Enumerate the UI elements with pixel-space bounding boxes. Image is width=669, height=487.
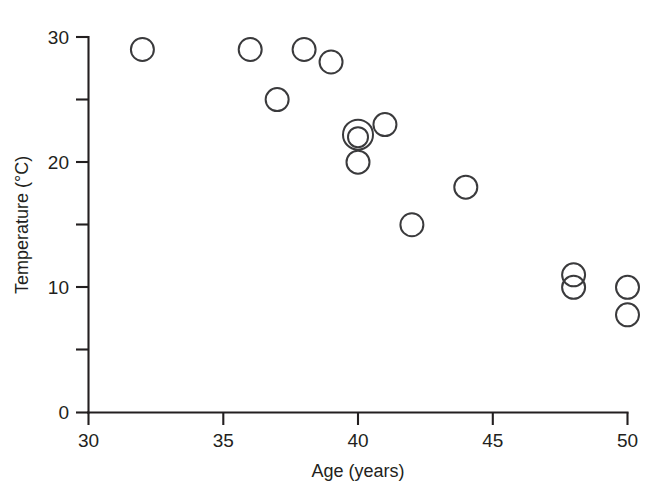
x-tick-label-50: 50: [617, 430, 638, 451]
data-point: [239, 38, 262, 61]
y-tick-label-10: 10: [48, 277, 69, 298]
y-tick-labels: 30 20 10 0: [48, 27, 69, 423]
x-tick-labels: 30 35 40 45 50: [78, 430, 638, 451]
data-point: [562, 276, 585, 299]
x-axis-title: Age (years): [311, 461, 404, 481]
x-tick-label-40: 40: [347, 430, 368, 451]
data-point: [266, 88, 289, 111]
x-tick-label-45: 45: [482, 430, 503, 451]
x-axis-ticks: [89, 413, 628, 426]
data-point: [348, 127, 368, 147]
x-tick-label-35: 35: [213, 430, 234, 451]
y-tick-label-30: 30: [48, 27, 69, 48]
y-tick-label-0: 0: [58, 402, 69, 423]
y-tick-label-20: 20: [48, 152, 69, 173]
y-axis-ticks: [76, 37, 89, 413]
x-tick-label-30: 30: [78, 430, 99, 451]
data-point-group: [131, 38, 639, 326]
plot-canvas: 30 20 10 0 30 35 40 45 50 Age (years) Te…: [0, 0, 669, 487]
data-point: [347, 151, 370, 174]
data-point: [320, 51, 343, 74]
data-point: [616, 303, 639, 326]
data-point: [293, 38, 316, 61]
data-point: [131, 38, 154, 61]
y-axis-title: Temperature (°C): [12, 156, 32, 294]
data-point: [562, 263, 585, 286]
data-point: [373, 113, 396, 136]
data-point: [454, 176, 477, 199]
data-point: [400, 213, 423, 236]
data-point: [616, 276, 639, 299]
scatter-plot-figure: 30 20 10 0 30 35 40 45 50 Age (years) Te…: [0, 0, 669, 487]
axis-spines: [88, 37, 628, 413]
